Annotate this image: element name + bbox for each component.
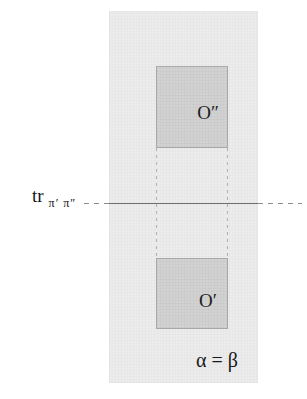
orbit-lower-square: O′ [156,258,228,329]
orbit-upper-label: O″ [197,102,219,121]
trace-label-subscript: π′ π″ [49,196,77,210]
trace-label: trπ′ π″ [32,186,76,209]
trace-line-dashed-left [84,203,109,204]
trace-line-solid [109,203,258,204]
orbit-lower-label: O′ [199,291,217,310]
figure-canvas: O″ O′ trπ′ π″ α = β [0,0,307,399]
trace-label-main: tr [32,185,44,206]
trace-line-dashed-right [258,203,302,204]
alpha-equals-beta-annotation: α = β [196,350,238,370]
orbit-upper-square: O″ [156,66,228,148]
